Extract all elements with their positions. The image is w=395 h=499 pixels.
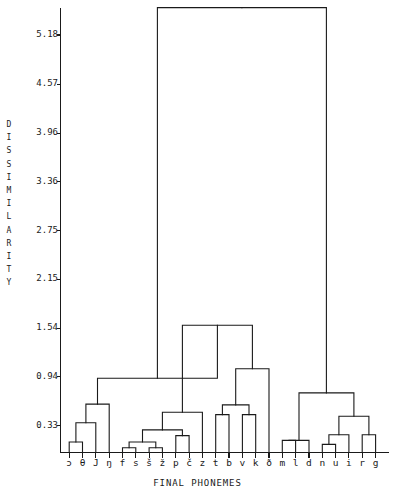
- x-axis-tick-label: k: [249, 457, 263, 468]
- axis-lines: [61, 8, 390, 453]
- dendrogram-link: [76, 423, 96, 453]
- x-axis-tick-label: p: [169, 457, 183, 468]
- x-axis-tick-label: θ: [76, 457, 90, 468]
- x-axis-tick-label: s: [129, 457, 143, 468]
- dendrogram-figure: DISSIMILARITY 5.184.573.963.362.752.151.…: [0, 0, 395, 499]
- x-axis-tick-label: l: [289, 457, 303, 468]
- dendrogram-link: [222, 405, 249, 415]
- dendrogram-link: [242, 415, 255, 453]
- dendrogram-link: [69, 442, 82, 453]
- x-axis-tick-label: m: [275, 457, 289, 468]
- dendrogram-link: [322, 444, 335, 452]
- x-axis-tick-label: v: [235, 457, 249, 468]
- x-axis-tick-label: J: [89, 457, 103, 468]
- x-axis-title: FINAL PHONEMES: [0, 478, 395, 488]
- dendrogram-plot: [0, 0, 395, 499]
- dendrogram-link: [149, 448, 162, 453]
- x-axis-tick-label: t: [209, 457, 223, 468]
- x-axis-tick-label: č: [182, 457, 196, 468]
- x-axis-tick-label: š: [142, 457, 156, 468]
- dendrogram-links: [69, 8, 375, 453]
- x-axis-tick-label: u: [329, 457, 343, 468]
- dendrogram-link: [86, 404, 109, 452]
- dendrogram-link: [129, 442, 156, 448]
- x-axis-tick-label: n: [315, 457, 329, 468]
- x-axis-tick-label: ɔ: [62, 457, 76, 468]
- dendrogram-link: [329, 435, 349, 453]
- dendrogram-link: [176, 436, 189, 453]
- x-axis-tick-label: z: [195, 457, 209, 468]
- dendrogram-link: [236, 369, 269, 453]
- dendrogram-link: [123, 448, 136, 453]
- x-axis-tick-label: i: [342, 457, 356, 468]
- x-axis-tick-label: ŋ: [102, 457, 116, 468]
- x-axis-tick-label: g: [369, 457, 383, 468]
- dendrogram-link: [216, 415, 229, 453]
- x-axis-tick-label: d: [302, 457, 316, 468]
- x-axis-tick-label: b: [222, 457, 236, 468]
- dendrogram-link: [362, 435, 375, 453]
- dendrogram-link: [282, 440, 295, 452]
- dendrogram-link: [339, 416, 369, 435]
- dendrogram-link: [289, 440, 309, 452]
- x-axis-tick-label: ž: [155, 457, 169, 468]
- x-axis-tick-label: r: [355, 457, 369, 468]
- x-axis-tick-label: f: [115, 457, 129, 468]
- x-axis-tick-label: ð: [262, 457, 276, 468]
